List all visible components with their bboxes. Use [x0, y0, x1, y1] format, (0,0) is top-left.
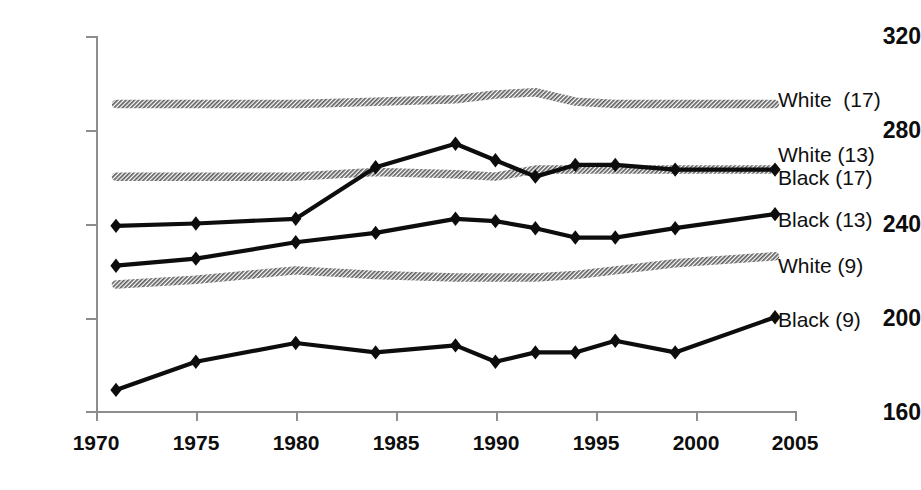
chart-container: 320 280 240 200 160 1970 1975 1980 1985 … [0, 0, 921, 490]
plot-area [0, 0, 921, 490]
data-point-marker [370, 226, 381, 240]
data-point-marker [610, 333, 621, 347]
series-line [116, 92, 775, 104]
data-point-marker [290, 235, 301, 249]
data-point-marker [450, 338, 461, 352]
data-point-marker [190, 216, 201, 230]
series-label-black-17: Black (17) [778, 166, 873, 190]
series-white-17 [116, 92, 775, 104]
data-point-marker [670, 221, 681, 235]
series-line [116, 256, 775, 284]
series-label-black-13: Black (13) [778, 208, 873, 232]
series-label-black-9: Black (9) [778, 308, 861, 332]
series-label-white-13: White (13) [778, 143, 875, 167]
data-point-marker [530, 345, 541, 359]
data-point-marker [570, 345, 581, 359]
data-point-marker [450, 137, 461, 151]
data-point-marker [490, 153, 501, 167]
data-point-marker [490, 214, 501, 228]
data-point-marker [570, 230, 581, 244]
data-point-marker [530, 221, 541, 235]
data-point-marker [290, 336, 301, 350]
data-point-marker [610, 230, 621, 244]
data-point-marker [370, 345, 381, 359]
data-point-marker [110, 383, 121, 397]
series-white-9 [116, 256, 775, 284]
series-line [116, 144, 775, 226]
data-point-marker [450, 212, 461, 226]
data-point-marker [670, 162, 681, 176]
data-point-marker [110, 219, 121, 233]
data-point-marker [190, 355, 201, 369]
data-point-marker [110, 258, 121, 272]
series-label-white-17: White (17) [778, 88, 881, 112]
data-point-marker [490, 355, 501, 369]
series-label-white-9: White (9) [778, 254, 863, 278]
data-point-marker [190, 251, 201, 265]
series-black-9 [110, 310, 780, 397]
data-point-marker [670, 345, 681, 359]
